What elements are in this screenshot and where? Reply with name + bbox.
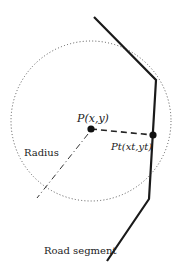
distance-line <box>91 129 153 135</box>
point-pt-marker <box>149 131 156 138</box>
road-distance-diagram: P(x,y) Pt(xt,yt) Radius Road segment <box>0 0 186 279</box>
radius-label: Radius <box>24 147 59 158</box>
road-segment-line <box>94 17 156 261</box>
point-pt-label: Pt(xt,yt) <box>110 141 152 152</box>
point-p-marker <box>87 125 94 132</box>
road-segment-label: Road segment <box>44 245 116 256</box>
radius-line <box>37 134 88 198</box>
point-p-label: P(x,y) <box>76 112 109 125</box>
